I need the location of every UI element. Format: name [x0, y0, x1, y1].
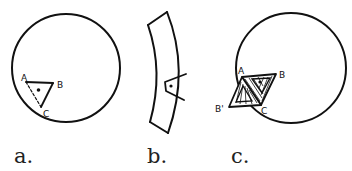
- panel-a: A B C a.: [12, 14, 120, 168]
- panel-c-caption: c.: [231, 144, 249, 168]
- panel-a-side-ab: [26, 82, 53, 83]
- panel-b-strip-bottom-edge: [150, 122, 168, 133]
- panel-a-side-bc: [41, 83, 53, 107]
- panel-c-label-c: C: [261, 106, 267, 116]
- panel-c-label-a: A: [238, 66, 245, 76]
- panel-c: A B C B' c.: [215, 13, 346, 168]
- panel-a-label-a: A: [21, 73, 28, 83]
- panel-b-strip-top-edge: [148, 12, 167, 25]
- panel-a-caption: a.: [14, 144, 33, 168]
- panel-a-circle: [12, 14, 120, 122]
- panel-c-label-b: B: [279, 70, 285, 80]
- panel-c-center-dot: [258, 80, 261, 83]
- panel-b-strip-inner-arc: [148, 25, 157, 122]
- panel-b: b.: [147, 12, 186, 168]
- panel-b-center-dot: [169, 84, 172, 87]
- panel-b-strip-outer-arc: [167, 12, 179, 133]
- panel-a-label-c: C: [43, 109, 49, 119]
- panel-a-label-b: B: [57, 80, 63, 90]
- panel-a-side-ac-dashed: [26, 82, 41, 107]
- diagram-canvas: A B C a. b.: [0, 0, 352, 171]
- panel-a-center-dot: [37, 88, 41, 92]
- panel-c-label-b-prime: B': [215, 104, 224, 114]
- panel-c-circle: [236, 13, 346, 123]
- panel-b-triangle: [165, 74, 186, 100]
- panel-b-caption: b.: [147, 144, 167, 168]
